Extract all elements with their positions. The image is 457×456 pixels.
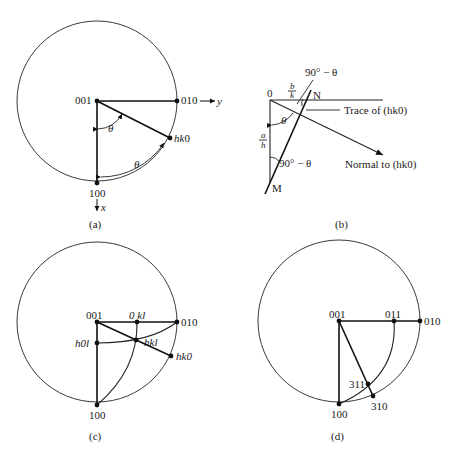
pole-010-d [418,319,423,324]
zone-arc-100-0kl [97,322,137,405]
stereographic-projection-figure: 001 010 100 hk0 θ θ y x (a) 0 N [0,0,457,456]
label-100-a: 100 [89,187,106,199]
theta-label-outer: θ [134,158,140,170]
pole-100-c [95,403,100,408]
label-hkl-c: hkl [144,336,157,348]
label-0kl-c: 0 kl [129,309,145,321]
x-axis-label: x [100,201,106,213]
pole-100-d [337,402,342,407]
label-h0l-c: h0l [75,337,89,349]
label-N: N [313,89,321,101]
caption-a: (a) [89,218,102,231]
label-k-den: k [290,90,295,100]
pole-100-a [95,181,100,186]
label-001-d: 001 [329,308,346,320]
label-origin-b: 0 [267,87,273,99]
pole-hk0-a [168,136,173,141]
theta-arc-outer [101,143,164,177]
label-hk0-c: hk0 [176,350,192,362]
theta-label-b: θ [281,114,287,126]
pole-010-a [175,99,180,104]
label-310-d: 310 [371,400,388,412]
label-100-c: 100 [89,409,106,421]
caption-b: (b) [335,218,348,231]
panel-d: 001 011 010 100 311 310 (d) [258,240,441,443]
label-hk0-a: hk0 [174,132,190,144]
pole-hk0-c [169,354,174,359]
label-010-d: 010 [424,315,441,327]
pole-311-d [366,382,371,387]
label-h-den: h [261,140,266,150]
angle-bottom-label: 90° − θ [279,157,311,169]
normal-label: Normal to (hk0) [345,158,417,171]
label-M: M [272,182,282,194]
angle-top-label: 90° − θ [305,66,337,78]
label-010-a: 010 [181,94,198,106]
label-010-c: 010 [181,316,198,328]
zone-arc-100-011 [339,321,394,404]
label-311-d: 311 [349,378,365,390]
pole-310-d [371,394,376,399]
theta-label-inner: θ [108,122,114,134]
panel-a: 001 010 100 hk0 θ θ y x (a) [17,21,222,231]
caption-c: (c) [89,430,102,443]
label-100-d: 100 [331,408,348,420]
trace-line-MN [265,90,311,194]
panel-b: 0 N M b k a h θ 90° − θ 90° − θ Trace of… [259,66,417,231]
pole-hkl-c [134,338,139,343]
panel-c: 001 010 100 0 kl hkl h0l hk0 (c) [17,242,198,443]
label-a-num: a [261,130,266,140]
pole-001-a [95,99,100,104]
caption-d: (d) [331,430,344,443]
trace-label: Trace of (hk0) [344,104,407,117]
label-001-a: 001 [75,94,92,106]
label-011-d: 011 [385,308,401,320]
pole-010-c [175,320,180,325]
y-axis-label: y [216,95,222,107]
label-001-c: 001 [86,309,103,321]
pole-h0l-c [95,341,100,346]
